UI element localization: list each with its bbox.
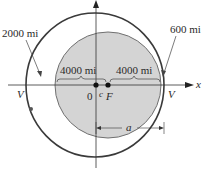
a-arrow-right-icon: [159, 126, 164, 130]
label-apogee-altitude: 2000 mi: [2, 27, 38, 39]
orbit-diagram: 2000 mi 600 mi 4000 mi 4000 mi 0 c F V V…: [0, 0, 204, 172]
label-semi-major-axis: a: [126, 121, 132, 133]
focus-dot: [105, 82, 110, 87]
label-x-axis: x: [195, 78, 201, 90]
label-origin: 0: [87, 90, 93, 102]
leader-600-arrow-icon: [161, 70, 166, 77]
label-perigee-altitude: 600 mi: [170, 23, 201, 35]
label-earth-radius-left: 4000 mi: [60, 64, 96, 76]
label-earth-radius-right: 4000 mi: [116, 64, 152, 76]
y-axis-arrow-icon: [93, 0, 99, 8]
label-vertex-left: V: [17, 88, 25, 100]
origin-dot: [93, 82, 98, 87]
leader-2000-arrow-icon: [37, 71, 42, 77]
satellite-dot: [29, 107, 33, 111]
x-axis-arrow-icon: [185, 82, 194, 88]
label-focus: F: [105, 90, 113, 102]
label-vertex-right: V: [168, 88, 176, 100]
leader-600: [164, 36, 176, 73]
label-c: c: [99, 89, 103, 99]
